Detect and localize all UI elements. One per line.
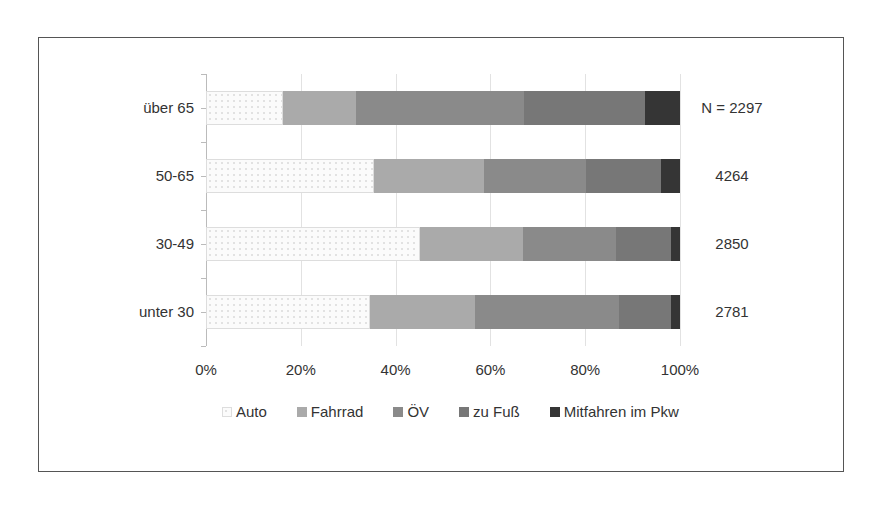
bar-segment-fahrrad <box>420 227 523 261</box>
legend-item: zu Fuß <box>459 403 520 420</box>
bar-row <box>206 159 680 193</box>
bar-segment-zu-fu- <box>619 295 671 329</box>
bar-segment-mitfahren-im-pkw <box>671 227 680 261</box>
bar-segment-auto <box>206 159 374 193</box>
bar-segment-auto <box>206 295 370 329</box>
bar-segment--v <box>523 227 616 261</box>
x-tick-label: 40% <box>381 361 411 378</box>
bar-segment-fahrrad <box>374 159 484 193</box>
legend: AutoFahrradÖVzu FußMitfahren im Pkw <box>222 403 709 420</box>
legend-swatch-icon <box>550 407 560 417</box>
legend-swatch-icon <box>222 407 232 417</box>
bar-segment-mitfahren-im-pkw <box>671 295 680 329</box>
y-tick <box>201 74 206 75</box>
x-tick-label: 100% <box>661 361 699 378</box>
sample-size-label: 2781 <box>692 303 772 320</box>
legend-swatch-icon <box>393 407 403 417</box>
category-label: über 65 <box>143 99 194 116</box>
bar-row <box>206 91 680 125</box>
bar-row <box>206 295 680 329</box>
legend-swatch-icon <box>459 407 469 417</box>
bar-row <box>206 227 680 261</box>
sample-size-label: 4264 <box>692 167 772 184</box>
legend-label: ÖV <box>407 403 429 420</box>
bar-segment-mitfahren-im-pkw <box>661 159 680 193</box>
bar-segment-auto <box>206 91 283 125</box>
sample-size-label: 2850 <box>692 235 772 252</box>
legend-label: Fahrrad <box>311 403 364 420</box>
bar-segment-auto <box>206 227 420 261</box>
legend-item: ÖV <box>393 403 429 420</box>
bar-segment--v <box>475 295 619 329</box>
legend-label: Auto <box>236 403 267 420</box>
x-tick-label: 0% <box>195 361 217 378</box>
legend-label: Mitfahren im Pkw <box>564 403 679 420</box>
bar-segment-mitfahren-im-pkw <box>645 91 680 125</box>
bar-segment-fahrrad <box>370 295 475 329</box>
legend-item: Auto <box>222 403 267 420</box>
legend-label: zu Fuß <box>473 403 520 420</box>
y-tick <box>201 278 206 279</box>
bar-segment--v <box>484 159 586 193</box>
gridline <box>680 74 681 346</box>
legend-swatch-icon <box>297 407 307 417</box>
legend-item: Mitfahren im Pkw <box>550 403 679 420</box>
legend-item: Fahrrad <box>297 403 364 420</box>
bar-segment-zu-fu- <box>616 227 671 261</box>
x-tick-label: 80% <box>570 361 600 378</box>
bar-segment-zu-fu- <box>524 91 645 125</box>
x-tick-label: 60% <box>475 361 505 378</box>
sample-size-label: N = 2297 <box>692 99 772 116</box>
x-tick-label: 20% <box>286 361 316 378</box>
y-tick <box>201 210 206 211</box>
category-label: 50-65 <box>156 167 194 184</box>
y-tick <box>201 142 206 143</box>
bar-segment--v <box>356 91 524 125</box>
bar-segment-zu-fu- <box>586 159 661 193</box>
bar-segment-fahrrad <box>283 91 356 125</box>
category-label: unter 30 <box>139 303 194 320</box>
y-tick <box>201 346 206 347</box>
category-label: 30-49 <box>156 235 194 252</box>
